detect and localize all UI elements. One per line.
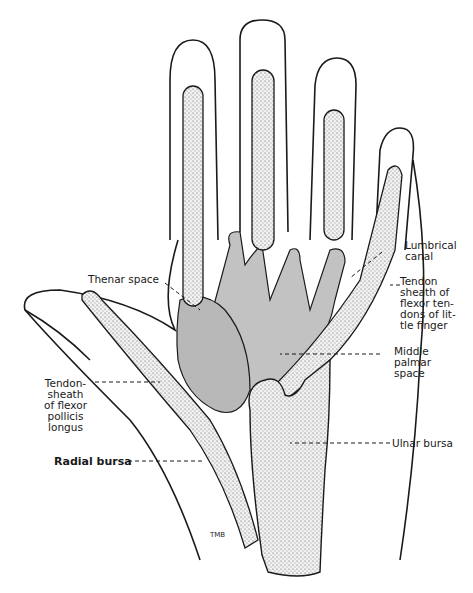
label-tendon-sheath-fpl: Tendon- sheath of flexor pollicis longus xyxy=(44,378,87,433)
label-middle-palmar-space: Middle palmar space xyxy=(394,346,431,379)
label-tendon-sheath-little-finger: Tendon sheath of flexor ten- dons of lit… xyxy=(400,276,456,331)
label-radial-bursa: Radial bursa xyxy=(54,456,132,467)
index-tendon-sheath xyxy=(183,86,203,306)
label-ulnar-bursa: Ulnar bursa xyxy=(392,438,453,449)
artist-signature: TMB xyxy=(210,531,225,539)
ring-tendon-sheath xyxy=(324,110,344,240)
middle-tendon-sheath xyxy=(252,70,274,250)
label-thenar-space: Thenar space xyxy=(88,274,159,285)
label-lumbrical-canal: Lumbrical canal xyxy=(405,240,457,262)
